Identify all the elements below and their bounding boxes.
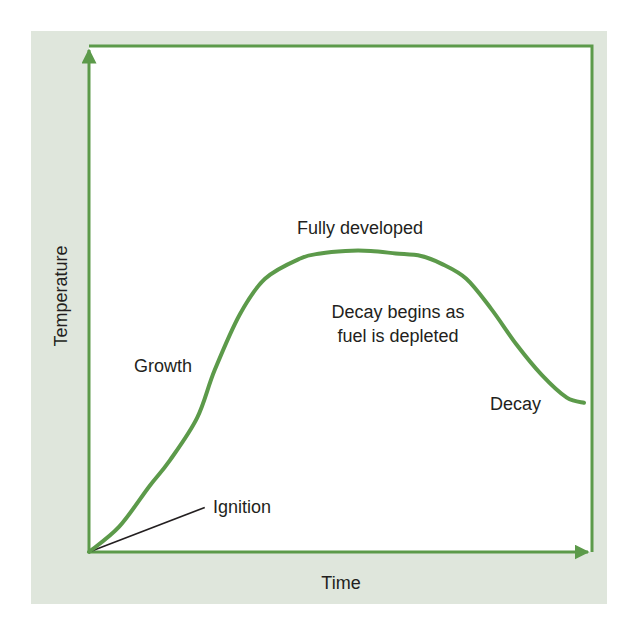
annotation-fully-developed: Fully developed: [297, 218, 423, 238]
y-axis-label: Temperature: [51, 245, 71, 346]
plot-area: [89, 46, 592, 552]
annotation-decay-begins-line1: Decay begins as: [331, 302, 464, 322]
annotation-decay: Decay: [490, 394, 541, 414]
x-axis-label: Time: [321, 573, 360, 593]
annotation-ignition: Ignition: [213, 497, 271, 517]
annotation-growth: Growth: [134, 356, 192, 376]
annotation-decay-begins-line2: fuel is depleted: [337, 326, 458, 346]
fire-stages-diagram: Time Temperature Ignition Growth Fully d…: [0, 0, 628, 627]
